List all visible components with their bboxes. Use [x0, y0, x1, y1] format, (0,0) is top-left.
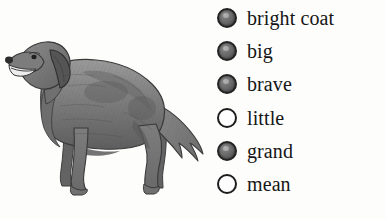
option-label: big — [247, 41, 273, 61]
radio-filled-icon[interactable] — [217, 141, 237, 161]
radio-empty-icon[interactable] — [217, 108, 237, 128]
dog-figure — [5, 42, 203, 195]
dog-drawing-svg — [2, 16, 210, 206]
option-label: bright coat — [247, 8, 334, 28]
radio-filled-icon[interactable] — [217, 74, 237, 94]
option-row[interactable]: mean — [217, 170, 386, 198]
option-row[interactable]: bright coat — [217, 4, 386, 32]
option-label: brave — [247, 74, 292, 94]
radio-filled-icon[interactable] — [217, 8, 237, 28]
dog-illustration — [0, 0, 212, 219]
option-row[interactable]: little — [217, 104, 386, 132]
option-label: grand — [247, 141, 293, 161]
radio-empty-icon[interactable] — [217, 174, 237, 194]
radio-filled-icon[interactable] — [217, 41, 237, 61]
page-root: bright coatbigbravelittlegrandmean — [0, 0, 386, 219]
option-row[interactable]: grand — [217, 137, 386, 165]
option-row[interactable]: big — [217, 37, 386, 65]
option-label: little — [247, 108, 284, 128]
option-row[interactable]: brave — [217, 70, 386, 98]
option-label: mean — [247, 174, 291, 194]
options-list: bright coatbigbravelittlegrandmean — [212, 0, 386, 219]
